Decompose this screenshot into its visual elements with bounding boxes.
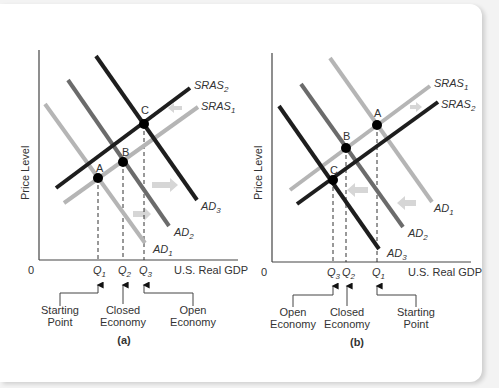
x-axis-label: U.S. Real GDP [174,264,248,276]
label-ad2: AD2 [173,226,194,241]
tick-q3: Q3 [139,264,153,279]
tick-q2: Q2 [118,264,132,279]
panel-caption-a: (a) [117,334,131,346]
tick-q1: Q1 [93,264,106,279]
tick-q1: Q1 [372,266,385,281]
x-axis-label: U.S. Real GDP [408,266,482,278]
point-b [118,157,128,167]
label-ad1: AD1 [152,243,173,258]
y-axis-label: Price Level [19,146,31,200]
curve-ad1 [45,104,145,243]
panel-a: Price Level 0 U.S. Real GDP A B C SRAS2 [19,50,248,346]
dashed-guides [98,124,144,260]
label-sras1: SRAS1 [201,100,235,115]
annotation-pointers [293,286,416,307]
tick-q3: Q3 [327,266,341,281]
point-c-label: C [330,164,338,176]
point-a [93,173,103,183]
point-c [328,175,338,185]
annotation-pointers [60,285,193,306]
tick-q2: Q2 [342,266,356,281]
ad-sras-figure: Price Level 0 U.S. Real GDP A B C SRAS2 [0,0,499,388]
annotation-open-economy: OpenEconomy [270,306,316,330]
origin-label: 0 [261,266,267,278]
panel-caption-b: (b) [350,336,364,348]
curve-ad2 [301,84,403,227]
annotation-starting-point: StartingPoint [41,304,79,328]
annotation-starting-point: StartingPoint [397,306,435,330]
label-ad3: AD3 [386,247,407,262]
label-sras2: SRAS2 [441,98,476,113]
label-sras2: SRAS2 [194,79,229,94]
point-c-label: C [141,104,149,116]
label-ad2: AD2 [407,227,428,242]
point-a-label: A [374,107,382,119]
label-ad1: AD1 [433,202,454,217]
y-axis-label: Price Level [252,146,264,200]
point-b-label: B [343,130,350,142]
origin-label: 0 [28,264,34,276]
point-a-label: A [96,162,104,174]
panel-b: Price Level 0 U.S. Real GDP A B C SRAS1 [252,53,482,348]
label-ad3: AD3 [200,200,221,215]
point-a [372,120,382,130]
annotation-closed-economy: ClosedEconomy [324,306,370,330]
point-b-label: B [122,146,129,158]
point-c [139,119,149,129]
label-sras1: SRAS1 [434,77,468,92]
point-b [341,143,351,153]
annotation-closed-economy: ClosedEconomy [100,304,146,328]
annotation-open-economy: OpenEconomy [170,304,216,328]
